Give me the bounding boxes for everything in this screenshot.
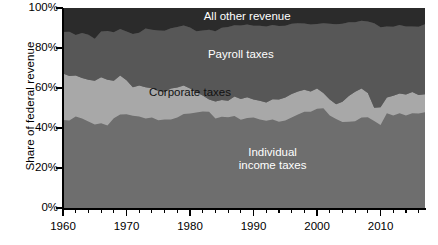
x-tick-mark-minor [164,209,165,213]
series-label-payroll-taxes: Payroll taxes [208,48,274,61]
x-tick-mark-minor [393,209,394,213]
x-tick-mark-minor [342,209,343,213]
x-tick-mark-major [380,209,382,216]
x-tick-mark-minor [266,209,267,213]
x-tick-mark-minor [177,209,178,213]
x-tick-mark-minor [101,209,102,213]
y-tick-mark [56,47,63,49]
stacked-area-chart: Share of federal revenue 0%20%40%60%80%1… [0,0,438,245]
series-label-corporate-taxes: Corporate taxes [149,86,231,99]
x-tick-mark-minor [291,209,292,213]
y-axis-line [62,8,64,209]
y-tick-label-20pct: 20% [14,162,58,174]
y-tick-mark [56,87,63,89]
y-tick-label-80pct: 80% [14,42,58,54]
y-tick-label-100pct: 100% [14,2,58,14]
x-tick-mark-minor [240,209,241,213]
x-tick-mark-major [126,209,128,216]
y-tick-mark [56,127,63,129]
plot-area [63,8,425,208]
x-tick-mark-minor [304,209,305,213]
x-tick-label-1980: 1980 [170,221,210,233]
x-tick-mark-major [253,209,255,216]
x-tick-mark-minor [88,209,89,213]
x-tick-mark-minor [228,209,229,213]
y-tick-label-60pct: 60% [14,82,58,94]
x-tick-mark-minor [278,209,279,213]
x-tick-mark-major [62,209,64,216]
y-tick-mark [56,167,63,169]
y-tick-mark [56,7,63,9]
x-tick-mark-minor [151,209,152,213]
x-tick-mark-minor [355,209,356,213]
y-tick-label-40pct: 40% [14,122,58,134]
x-tick-mark-minor [215,209,216,213]
area-series-group [63,8,425,208]
x-tick-label-2010: 2010 [361,221,401,233]
x-tick-mark-minor [329,209,330,213]
x-tick-mark-minor [418,209,419,213]
y-axis-tick-labels: 0%20%40%60%80%100% [12,0,58,245]
x-tick-label-1970: 1970 [107,221,147,233]
x-tick-label-1960: 1960 [43,221,83,233]
series-label-individual-income-taxes-line2: income taxes [239,159,307,172]
x-tick-mark-minor [139,209,140,213]
x-tick-mark-minor [75,209,76,213]
x-axis-line [62,208,426,210]
x-tick-mark-minor [405,209,406,213]
series-label-individual-income-taxes-line1: Individual [248,146,297,159]
x-tick-mark-major [189,209,191,216]
x-tick-label-1990: 1990 [234,221,274,233]
x-tick-mark-minor [202,209,203,213]
x-tick-mark-major [316,209,318,216]
x-tick-label-2000: 2000 [297,221,337,233]
series-label-all-other-revenue: All other revenue [204,10,291,23]
y-tick-label-0pct: 0% [14,202,58,214]
x-tick-mark-minor [113,209,114,213]
x-tick-mark-minor [367,209,368,213]
